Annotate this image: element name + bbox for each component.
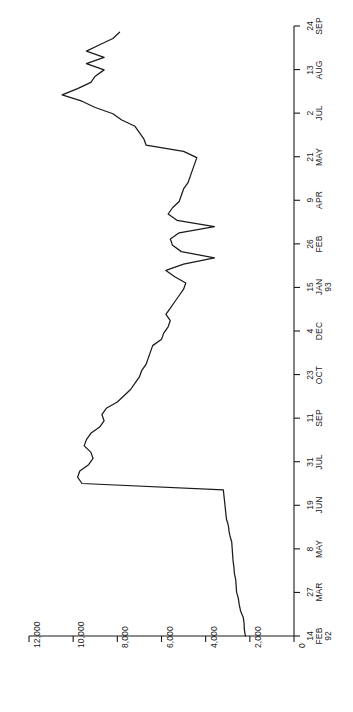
chart-container: 12,00010,0008,0006,0004,0002,0000 14FEB9… [0, 0, 353, 712]
date-axis-tick-label: 11SEP [306, 396, 324, 440]
date-axis-tick-label: 27MAR [306, 570, 324, 614]
date-axis-tick-label: 14FEB92 [306, 614, 334, 658]
date-label-month: JUL [315, 440, 324, 484]
date-axis-tick-label: 15JAN93 [306, 265, 334, 309]
date-label-month: SEP [315, 4, 324, 48]
date-label-month: APR [315, 178, 324, 222]
value-axis-tick-label: 8,000 [121, 626, 130, 648]
date-axis-tick-label: 31JUL [306, 440, 324, 484]
date-label-year: 93 [324, 265, 333, 309]
date-axis-tick-label: 23OCT [306, 353, 324, 397]
date-label-month: JUL [315, 91, 324, 135]
value-axis-tick-label: 4,000 [210, 626, 219, 648]
date-axis-tick-label: 9APR [306, 178, 324, 222]
series-line-value [62, 32, 245, 636]
date-axis-tick-label: 8MAY [306, 527, 324, 571]
line-chart-plot [0, 0, 353, 712]
date-axis-tick-label: 19JUN [306, 483, 324, 527]
date-axis-tick-label: 13AUG [306, 48, 324, 92]
date-axis-tick-label: 2JUL [306, 91, 324, 135]
date-label-month: DEC [315, 309, 324, 353]
date-label-month: OCT [315, 353, 324, 397]
date-label-month: JUN [315, 483, 324, 527]
date-axis-tick-label: 4DEC [306, 309, 324, 353]
date-label-month: AUG [315, 48, 324, 92]
date-label-month: MAY [315, 527, 324, 571]
date-axis-tick-label: 24SEP [306, 4, 324, 48]
date-label-month: MAR [315, 570, 324, 614]
date-label-month: FEB [315, 222, 324, 266]
date-label-year: 92 [324, 614, 333, 658]
date-label-month: SEP [315, 396, 324, 440]
value-axis-tick-label: 2,000 [254, 626, 263, 648]
date-axis-tick-label: 26FEB [306, 222, 324, 266]
date-axis-ticks [294, 26, 300, 636]
date-label-month: MAY [315, 135, 324, 179]
value-axis-tick-label: 6,000 [166, 626, 175, 648]
value-axis-tick-label: 10,000 [77, 621, 86, 648]
date-axis-tick-label: 21MAY [306, 135, 324, 179]
value-axis-tick-label: 12,000 [33, 621, 42, 648]
